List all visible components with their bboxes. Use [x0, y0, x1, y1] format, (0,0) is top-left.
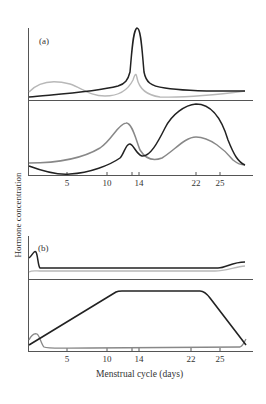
panel-label-b: (b)	[38, 243, 49, 253]
curve-estrogen-a	[29, 123, 245, 165]
curve-gray-upper-b	[29, 266, 245, 272]
tick-label-25-b: 25	[216, 354, 225, 364]
tick-label-5-a: 5	[65, 178, 70, 188]
chart-canvas	[0, 0, 266, 404]
tick-label-25-a: 25	[216, 178, 225, 188]
curve-progesterone-a	[29, 104, 245, 174]
curve-lh-a	[29, 28, 245, 97]
tick-label-22-a: 22	[192, 178, 201, 188]
panel-label-a: (a)	[39, 36, 49, 46]
tick-label-14-b: 14	[135, 354, 144, 364]
curve-gray-lower-b	[29, 334, 246, 348]
tick-label-10-b: 10	[103, 354, 112, 364]
y-axis-label: Hormone concentration	[13, 165, 23, 265]
tick-label-10-a: 10	[103, 178, 112, 188]
tick-label-14-a: 14	[135, 178, 144, 188]
tick-label-22-b: 22	[187, 354, 196, 364]
x-axis-label: Menstrual cycle (days)	[96, 369, 183, 379]
curve-dark-lower-b	[29, 291, 246, 345]
tick-label-5-b: 5	[65, 354, 70, 364]
curve-dark-upper-b	[29, 252, 245, 268]
